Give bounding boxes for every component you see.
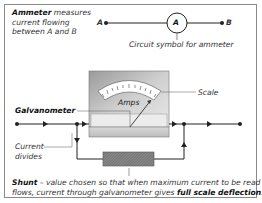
arrow-icon <box>43 121 48 127</box>
ammeter-description: Ammeter measures current flowing between… <box>12 8 91 37</box>
terminal-a-dot <box>104 21 108 25</box>
input-dot <box>15 122 19 126</box>
shunt-note: Shunt – value chosen so that when maximu… <box>12 178 262 197</box>
shunt-resistor <box>103 152 154 166</box>
ammeter-symbol <box>104 13 224 40</box>
current-divides-label: Current divides <box>15 142 44 161</box>
terminal-b-dot <box>220 21 224 25</box>
galvanometer <box>89 71 196 137</box>
junction-right <box>182 122 186 126</box>
full-scale-deflection: full scale deflection <box>177 188 261 197</box>
arrow-up-icon <box>181 142 187 147</box>
scale-label: Scale <box>198 88 218 98</box>
arrow-icon <box>207 121 212 127</box>
ammeter-term: Ammeter <box>12 8 51 17</box>
junction-left <box>75 122 79 126</box>
galvanometer-label: Galvanometer <box>15 106 75 116</box>
arrow-icon <box>172 121 177 127</box>
terminal-b-label: B <box>226 18 232 28</box>
arrow-down-icon <box>74 138 80 143</box>
terminal-a-label: A <box>97 18 103 28</box>
shunt-term: Shunt <box>12 178 37 187</box>
output-dot <box>238 122 242 126</box>
arrow-icon <box>82 121 87 127</box>
symbol-caption: Circuit symbol for ammeter <box>129 40 234 50</box>
ammeter-symbol-letter: A <box>173 18 179 28</box>
dial-label: Amps <box>118 98 139 108</box>
